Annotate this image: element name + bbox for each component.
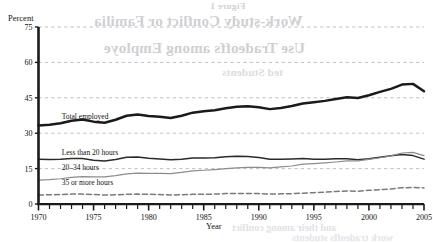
svg-text:0: 0 [29,200,33,209]
svg-text:35 or more hours: 35 or more hours [62,178,114,187]
svg-text:1995: 1995 [306,213,322,222]
svg-text:30: 30 [25,129,33,138]
svg-text:45: 45 [25,94,33,103]
svg-text:1990: 1990 [251,213,267,222]
svg-text:15: 15 [25,165,33,174]
svg-text:1975: 1975 [86,213,102,222]
svg-text:75: 75 [25,23,33,32]
svg-text:20–34 hours: 20–34 hours [62,163,99,172]
svg-text:60: 60 [25,58,33,67]
series-labels: Total employedLess than 20 hours20–34 ho… [62,112,119,187]
y-axis-ticks: 01530456075 [25,23,39,209]
line-chart-plot: 01530456075 1970197519801985199019952000… [0,0,433,242]
svg-text:1985: 1985 [196,213,212,222]
svg-text:1970: 1970 [31,213,47,222]
svg-text:2000: 2000 [361,213,377,222]
svg-text:1980: 1980 [141,213,157,222]
chart-container: Figure 1 Work-study Conflict or Familia … [0,0,433,242]
svg-text:Less than 20 hours: Less than 20 hours [62,148,119,157]
x-axis-ticks: 19701975198019851990199520002005 [31,204,433,222]
svg-text:2005: 2005 [416,213,432,222]
svg-text:Total employed: Total employed [62,112,109,121]
